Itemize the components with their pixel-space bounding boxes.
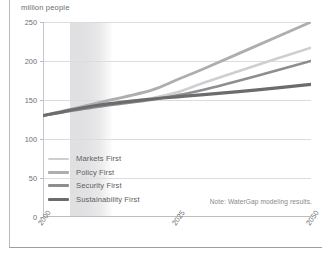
y-axis-unit-title: million people: [21, 3, 70, 12]
legend-item[interactable]: Sustainability First: [48, 193, 140, 207]
legend-swatch-icon: [48, 184, 69, 187]
y-axis-tick-label: 250: [3, 18, 37, 27]
y-axis-tick-label: 200: [3, 57, 37, 66]
y-axis-tick: [40, 61, 43, 62]
legend-swatch-icon: [48, 171, 69, 174]
chart-legend: Markets FirstPolicy FirstSecurity FirstS…: [48, 152, 140, 206]
legend-item-label: Security First: [76, 181, 122, 190]
chart-figure: million people 050100150200250 200020252…: [0, 0, 331, 263]
legend-item[interactable]: Markets First: [48, 152, 140, 166]
legend-item[interactable]: Policy First: [48, 166, 140, 180]
series-line: [43, 22, 311, 116]
legend-item-label: Markets First: [76, 154, 121, 163]
y-axis-tick-label: 100: [3, 135, 37, 144]
y-axis-tick-label: 50: [3, 174, 37, 183]
y-axis-tick-label: 0: [3, 213, 37, 222]
legend-item-label: Policy First: [76, 168, 114, 177]
legend-item-label: Sustainability First: [76, 195, 140, 204]
legend-item[interactable]: Security First: [48, 179, 140, 193]
y-axis-tick: [40, 178, 43, 179]
series-line: [43, 84, 311, 115]
chart-note: Note: WaterGap modeling results.: [210, 198, 312, 205]
y-axis-tick-label: 150: [3, 96, 37, 105]
legend-swatch-icon: [48, 158, 69, 160]
legend-swatch-icon: [48, 198, 69, 201]
y-axis-tick: [40, 100, 43, 101]
y-axis-tick: [40, 22, 43, 23]
y-axis-tick: [40, 139, 43, 140]
